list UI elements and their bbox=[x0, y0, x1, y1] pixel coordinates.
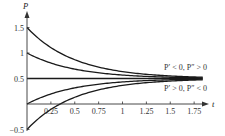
t-axis-arrow-icon bbox=[202, 102, 209, 107]
x-tick-label: 0.25 bbox=[44, 107, 58, 116]
x-tick-label: 1.25 bbox=[139, 107, 153, 116]
annotation-decreasing: P′ < 0, P″ > 0 bbox=[164, 63, 207, 72]
x-tick-label: 0.75 bbox=[92, 107, 106, 116]
x-tick-label: 1 bbox=[121, 107, 125, 116]
t-axis-label: t bbox=[212, 99, 215, 109]
y-tick-label: 1.5 bbox=[14, 24, 24, 33]
p-axis-label: P bbox=[22, 1, 28, 11]
x-tick-label: 0.5 bbox=[70, 107, 80, 116]
solution-curves-chart: 0.250.50.7511.251.51.75 −0.50.511.5 P t … bbox=[0, 0, 225, 136]
y-tick-label: −0.5 bbox=[9, 126, 24, 135]
x-tick-label: 1.75 bbox=[187, 107, 201, 116]
p-axis-arrow-icon bbox=[25, 11, 30, 18]
x-tick-label: 1.5 bbox=[165, 107, 175, 116]
annotation-increasing: P′ > 0, P″ < 0 bbox=[164, 84, 207, 93]
y-ticks: −0.50.511.5 bbox=[9, 24, 29, 135]
y-tick-label: 1 bbox=[20, 49, 24, 58]
y-tick-label: 0.5 bbox=[14, 75, 24, 84]
